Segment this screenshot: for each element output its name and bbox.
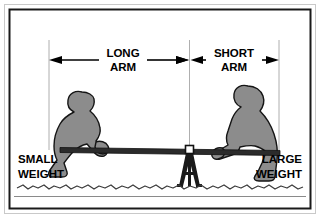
small-weight-label-line2: WEIGHT [18,168,64,180]
lever-diagram: LONG ARM SHORT ARM [0,0,320,218]
short-arm-label-line1: SHORT [214,47,254,59]
short-arm-label-line2: ARM [221,61,247,73]
long-arm-label-line1: LONG [106,47,139,59]
long-arm-label-line2: ARM [110,61,136,73]
fulcrum-center-strut [188,153,191,186]
fulcrum-pivot-block [186,146,194,154]
fulcrum-cross-brace [183,172,196,175]
diagram-canvas: LONG ARM SHORT ARM [0,0,320,218]
small-weight-label-line1: SMALL [18,153,58,165]
large-weight-label-line2: WEIGHT [256,168,302,180]
large-weight-label-line1: LARGE [262,153,303,165]
